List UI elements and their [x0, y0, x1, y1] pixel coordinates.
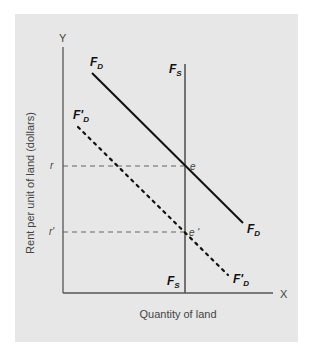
equilibrium-label-e: e	[190, 161, 196, 172]
y-axis-title: Rent per unit of land (dollars)	[24, 112, 36, 254]
shifted-demand-label-top: F'D	[73, 108, 89, 124]
x-axis-letter: X	[280, 288, 288, 300]
equilibrium-label-e-prime: e '	[189, 227, 200, 238]
shifted-demand-label-bottom: F'D	[233, 272, 249, 288]
shifted-demand-curve	[78, 127, 228, 275]
land-rent-diagram: Y X Rent per unit of land (dollars) Quan…	[0, 0, 315, 355]
x-axis-title: Quantity of land	[139, 308, 216, 320]
supply-label-bottom: FS	[167, 274, 180, 290]
supply-label-top: FS	[169, 62, 182, 78]
demand-label-bottom: FD	[247, 222, 260, 238]
y-axis-letter: Y	[59, 32, 67, 44]
price-label-r-prime: r'	[49, 226, 55, 237]
price-label-r: r	[50, 160, 54, 171]
demand-label-top: FD	[90, 55, 103, 71]
demand-curve	[92, 73, 243, 223]
